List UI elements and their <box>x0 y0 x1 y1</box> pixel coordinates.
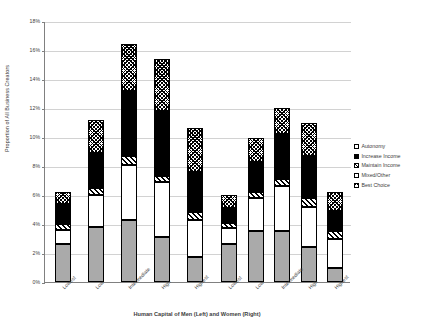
bar-segment-maintain-income <box>88 188 104 195</box>
y-axis-tick <box>42 51 45 52</box>
bar-segment-maintain-income <box>221 223 237 229</box>
swatch-best-choice-icon <box>354 183 359 188</box>
bar-segment-increase-income <box>221 208 237 223</box>
swatch-maintain-income-icon <box>354 163 359 168</box>
y-axis-tick <box>42 225 45 226</box>
y-axis-tick <box>42 22 45 23</box>
bar-segment-increase-income <box>187 172 203 213</box>
bar-segment-autonomy <box>154 237 170 282</box>
bar-stack <box>121 21 137 282</box>
y-axis-tick-label: 6% <box>33 193 41 198</box>
bar-segment-autonomy <box>301 247 317 282</box>
bar-segment-best-choice <box>248 138 264 161</box>
bar-segment-autonomy <box>55 244 71 282</box>
bar-segment-maintain-income <box>301 198 317 207</box>
swatch-mixed-other-icon <box>354 173 359 178</box>
x-axis-title: Human Capital of Men (Left) and Women (R… <box>44 311 350 317</box>
bar-segment-best-choice <box>154 59 170 111</box>
legend-item-label: Mixed/Other <box>361 173 390 178</box>
bar-segment-maintain-income <box>55 224 71 230</box>
legend-item-label: Best Choice <box>361 183 390 188</box>
bar-stack <box>154 21 170 282</box>
bar-stack <box>248 21 264 282</box>
y-axis-tick <box>42 196 45 197</box>
bar-segment-best-choice <box>187 128 203 172</box>
bar-segment-best-choice <box>301 123 317 156</box>
bar-segment-mixed-other <box>327 239 343 268</box>
bar-segment-best-choice <box>88 120 104 153</box>
bar-segment-maintain-income <box>187 212 203 219</box>
y-axis-tick-label: 16% <box>30 48 40 53</box>
y-axis-tick <box>42 80 45 81</box>
swatch-autonomy-icon <box>354 144 359 149</box>
bar-segment-maintain-income <box>274 179 290 186</box>
bar-segment-mixed-other <box>121 165 137 220</box>
y-axis-tick-label: 8% <box>33 164 41 169</box>
bar-segment-autonomy <box>88 227 104 282</box>
bar-segment-increase-income <box>274 134 290 179</box>
bar-segment-increase-income <box>327 211 343 231</box>
y-axis-title: Proportion of All Business Creators <box>4 65 10 152</box>
bar-segment-maintain-income <box>248 192 264 198</box>
y-axis-tick-label: 0% <box>33 280 41 285</box>
legend-item[interactable]: Autonomy <box>354 142 432 152</box>
plot-area: 0%2%4%6%8%10%12%14%16%18% <box>44 22 350 283</box>
bar-segment-increase-income <box>55 204 71 224</box>
bar-segment-increase-income <box>88 153 104 188</box>
bar-segment-increase-income <box>301 156 317 198</box>
bar-segment-autonomy <box>248 231 264 282</box>
legend-item[interactable]: Mixed/Other <box>354 171 432 181</box>
bar-segment-maintain-income <box>121 156 137 165</box>
y-axis-tick <box>42 254 45 255</box>
bar-stack <box>55 21 71 282</box>
bar-segment-best-choice <box>55 192 71 204</box>
y-axis-tick <box>42 138 45 139</box>
bar-segment-autonomy <box>274 231 290 282</box>
y-axis-tick-label: 2% <box>33 251 41 256</box>
y-axis-tick-label: 12% <box>30 106 40 111</box>
bar-segment-mixed-other <box>274 186 290 231</box>
bar-segment-mixed-other <box>301 207 317 248</box>
bar-segment-best-choice <box>121 44 137 90</box>
legend-item[interactable]: Maintain Income <box>354 161 432 171</box>
swatch-increase-income-icon <box>354 154 359 159</box>
y-axis-tick <box>42 283 45 284</box>
bar-segment-best-choice <box>327 192 343 211</box>
y-axis-tick <box>42 167 45 168</box>
y-axis-tick-label: 10% <box>30 135 40 140</box>
bar-segment-mixed-other <box>154 182 170 237</box>
bar-segment-best-choice <box>221 195 237 208</box>
bar-stack <box>274 21 290 282</box>
bar-stack <box>88 21 104 282</box>
legend-item-label: Autonomy <box>361 144 385 149</box>
legend-item[interactable]: Best Choice <box>354 180 432 190</box>
bar-segment-autonomy <box>221 244 237 282</box>
legend-item-label: Maintain Income <box>361 163 400 168</box>
bar-stack <box>301 21 317 282</box>
bar-segment-mixed-other <box>221 228 237 244</box>
chart-legend: AutonomyIncrease IncomeMaintain IncomeMi… <box>354 142 432 190</box>
stacked-bar-chart: Proportion of All Business Creators 0%2%… <box>0 0 433 330</box>
bar-stack <box>221 21 237 282</box>
legend-item[interactable]: Increase Income <box>354 152 432 162</box>
bar-segment-increase-income <box>121 91 137 156</box>
y-axis-tick <box>42 109 45 110</box>
bar-stack <box>187 21 203 282</box>
bar-segment-autonomy <box>121 220 137 282</box>
bar-stack <box>327 21 343 282</box>
bar-segment-mixed-other <box>187 220 203 258</box>
legend-item-label: Increase Income <box>361 154 400 159</box>
bar-segment-best-choice <box>274 108 290 134</box>
y-axis-tick-label: 18% <box>30 19 40 24</box>
bar-segment-increase-income <box>154 111 170 176</box>
bar-segment-mixed-other <box>88 195 104 227</box>
bar-segment-mixed-other <box>55 230 71 245</box>
y-axis-tick-label: 14% <box>30 77 40 82</box>
bar-segment-increase-income <box>248 162 264 192</box>
y-axis-tick-label: 4% <box>33 222 41 227</box>
bar-segment-mixed-other <box>248 198 264 231</box>
bar-segment-maintain-income <box>327 231 343 238</box>
bar-segment-maintain-income <box>154 176 170 182</box>
